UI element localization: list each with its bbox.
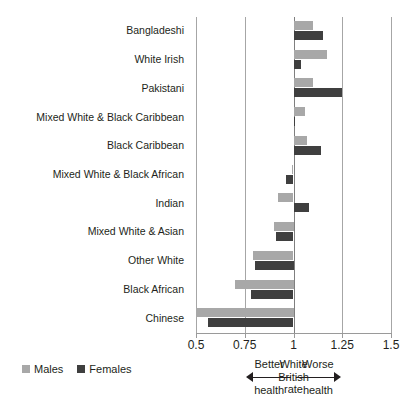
category-label: Mixed White & Asian [88,225,184,237]
bar [294,203,310,212]
bar [294,50,327,59]
category-label: Mixed White & Black Caribbean [36,111,184,123]
bar [196,308,294,317]
bar [294,60,302,69]
bar [294,88,343,97]
legend-swatch-females-icon [77,365,85,373]
plot-area [196,17,391,333]
x-axis-tick-label: 1 [290,338,297,352]
annotation-worse-bottom: health [303,384,333,397]
bar [286,175,294,184]
annotation-arrow-better [246,372,291,384]
bar [255,261,294,270]
bar [292,165,294,174]
bar [294,146,321,155]
chart-container: BangladeshiWhite IrishPakistaniMixed Whi… [0,0,418,415]
x-axis-tick-label: 1.5 [383,338,400,352]
category-label: Bangladeshi [126,24,184,36]
category-label: Chinese [145,312,184,324]
bar [251,290,294,299]
bar [294,136,308,145]
x-axis-tick-label: 0.75 [233,338,256,352]
gridline [196,17,197,333]
legend-item-males[interactable]: Males [22,363,63,375]
bar [294,107,306,116]
bar [208,318,294,327]
bar [276,232,294,241]
category-label: Other White [128,254,184,266]
category-axis-labels: BangladeshiWhite IrishPakistaniMixed Whi… [0,17,188,333]
chart-title-fragment [0,0,418,7]
bar [253,251,294,260]
legend-item-females[interactable]: Females [77,363,131,375]
legend-swatch-males-icon [22,365,30,373]
bar [294,117,296,126]
x-axis-tick-label: 0.5 [188,338,205,352]
arrow-right-icon [334,372,341,382]
gridline [342,17,343,333]
annotation-arrow-worse [296,372,341,384]
annotation-worse-top: Worse [302,358,334,371]
category-label: Indian [155,197,184,209]
bar [274,222,294,231]
bar [294,21,314,30]
x-axis-tick-label: 1.25 [331,338,354,352]
category-label: Mixed White & Black African [53,168,184,180]
bar [294,31,323,40]
legend-label-females: Females [89,363,131,375]
category-label: Black African [123,283,184,295]
legend-label-males: Males [34,363,63,375]
arrow-left-icon [246,372,253,382]
arrow-line [252,377,291,378]
bar [278,193,294,202]
bar [235,280,294,289]
category-label: Black Caribbean [107,139,184,151]
gridline [391,17,392,333]
chart-legend: Males Females [22,363,132,375]
category-label: White Irish [134,53,184,65]
category-label: Pakistani [141,82,184,94]
arrow-line [296,377,335,378]
bar [294,78,314,87]
